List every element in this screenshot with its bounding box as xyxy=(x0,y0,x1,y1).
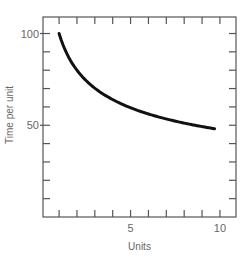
y-tick-label: 100 xyxy=(21,28,39,40)
x-tick-label: 10 xyxy=(214,222,226,234)
learning-curve-chart: 51050100 Units Time per unit xyxy=(0,0,248,257)
plot-frame xyxy=(43,17,236,217)
tick-labels: 51050100 xyxy=(21,28,226,234)
x-axis-title: Units xyxy=(128,241,151,252)
axes xyxy=(43,17,236,217)
y-tick-label: 50 xyxy=(27,119,39,131)
series-line-learning-curve xyxy=(59,34,214,129)
x-tick-label: 5 xyxy=(128,222,134,234)
ticks xyxy=(40,17,236,217)
y-axis-title: Time per unit xyxy=(4,86,15,144)
